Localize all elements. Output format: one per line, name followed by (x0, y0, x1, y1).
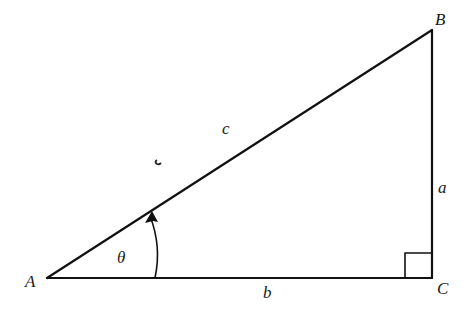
vertex-label-a: A (24, 272, 36, 291)
side-c-hypotenuse (47, 30, 432, 278)
side-label-c: c (222, 119, 230, 138)
stray-mark (156, 160, 162, 164)
side-label-a: a (438, 178, 447, 197)
angle-arc (150, 216, 157, 278)
angle-label-theta: θ (117, 248, 125, 267)
side-label-b: b (263, 283, 272, 302)
right-angle-marker (405, 253, 432, 278)
right-triangle-diagram: A B C c a b θ (0, 0, 467, 324)
vertex-label-c: C (437, 279, 449, 298)
vertex-label-b: B (435, 10, 446, 29)
